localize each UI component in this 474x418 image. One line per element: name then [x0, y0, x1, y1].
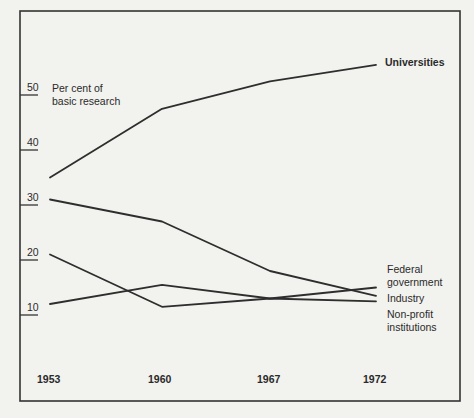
y-tick-label-10: 10 [27, 301, 39, 314]
y-axis-title-line-1: Per cent of [52, 82, 103, 95]
x-label-1972: 1972 [363, 373, 386, 386]
series-label-federal-line-2: government [387, 276, 442, 289]
series-label-industry: Industry [387, 292, 424, 305]
series-line-federal-government [50, 200, 376, 296]
series-label-universities: Universities [385, 56, 445, 69]
series-label-federal-line-1: Federal [387, 263, 423, 276]
y-axis-title-line-2: basic research [52, 95, 120, 108]
series-line-industry [50, 285, 376, 304]
y-tick-label-50: 50 [27, 81, 39, 94]
series-line-non-profit-institutions [50, 255, 376, 307]
series-label-nonprofit-line-1: Non-profit [387, 308, 433, 321]
x-label-1960: 1960 [148, 373, 171, 386]
y-tick-label-40: 40 [27, 136, 39, 149]
y-tick-label-20: 20 [27, 246, 39, 259]
series-label-nonprofit-line-2: institutions [387, 321, 437, 334]
x-label-1967: 1967 [257, 373, 280, 386]
y-axis-ticks [20, 95, 38, 315]
y-tick-label-30: 30 [27, 191, 39, 204]
x-label-1953: 1953 [37, 373, 60, 386]
